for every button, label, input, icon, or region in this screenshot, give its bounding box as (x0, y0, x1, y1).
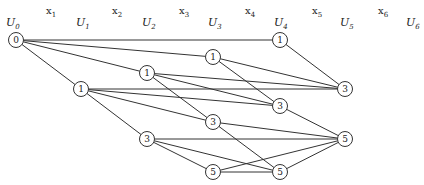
edge-n3b-n5b (220, 123, 337, 138)
node-u2-3: 3 (140, 132, 155, 147)
decision-label-x1: x1 (46, 5, 56, 19)
edge-n4c-n5b (287, 142, 339, 168)
node-u5-5: 5 (338, 132, 353, 147)
decision-label-x2: x2 (112, 5, 122, 19)
node-value: 1 (78, 84, 84, 94)
node-value: 0 (13, 35, 19, 45)
node-u3-1: 1 (206, 50, 221, 65)
node-value: 3 (210, 117, 216, 127)
node-value: 1 (144, 68, 150, 78)
edge-n0-n1a (22, 45, 75, 85)
edge-n2a-n3b (153, 77, 207, 117)
decision-label-x6: x6 (378, 5, 389, 19)
edge-n0-n2a (23, 42, 139, 71)
edge-n1a-n2b (87, 94, 141, 135)
node-u1-1: 1 (74, 82, 89, 97)
node-value: 1 (210, 52, 216, 62)
edge-n3a-n5a (220, 59, 337, 87)
node-value: 1 (277, 35, 283, 45)
stage-label-u0: U0 (6, 16, 20, 31)
decision-label-x4: x4 (245, 5, 256, 19)
edge-n4a-n5a (286, 45, 339, 85)
staged-network-diagram: U0U1U2U3U4U5U6x1x2x3x4x5x6 011313513535 (0, 0, 424, 185)
node-value: 5 (210, 167, 216, 177)
node-u4-1: 1 (273, 33, 288, 48)
node-u3-5: 5 (206, 165, 221, 180)
stage-label-u3: U3 (208, 16, 222, 31)
edge-n4b-n5b (287, 109, 339, 135)
stage-label-u1: U1 (76, 16, 90, 31)
edge-n3a-n4b (219, 61, 274, 101)
stage-label-u6: U6 (406, 16, 420, 31)
node-u3-3: 3 (206, 115, 221, 130)
stage-label-u4: U4 (274, 16, 288, 31)
node-u4-5: 5 (273, 165, 288, 180)
labels-layer: U0U1U2U3U4U5U6x1x2x3x4x5x6 (6, 5, 420, 31)
edges-layer (22, 40, 339, 172)
node-u5-3: 3 (338, 82, 353, 97)
node-value: 5 (277, 167, 283, 177)
edge-n2b-n3c (154, 142, 207, 168)
node-value: 3 (277, 101, 283, 111)
decision-label-x5: x5 (312, 5, 322, 19)
node-u4-3: 3 (273, 99, 288, 114)
node-u0-0: 0 (9, 33, 24, 48)
edge-n1a-n3b (88, 91, 205, 120)
node-value: 3 (342, 84, 348, 94)
node-u2-1: 1 (140, 66, 155, 81)
node-value: 5 (342, 134, 348, 144)
decision-label-x3: x3 (179, 5, 189, 19)
edge-n3b-n4c (219, 126, 274, 167)
stage-label-u2: U2 (142, 16, 156, 31)
node-value: 3 (144, 134, 150, 144)
stage-label-u5: U5 (340, 16, 354, 31)
